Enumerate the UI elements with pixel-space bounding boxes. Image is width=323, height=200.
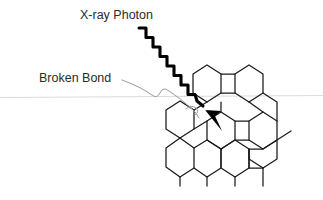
lattice-bond-segment bbox=[180, 138, 194, 148]
squiggly-wave-icon bbox=[139, 28, 203, 106]
lattice-bond-segment bbox=[249, 102, 263, 112]
impact-arrow-icon bbox=[197, 100, 222, 131]
hexagonal-lattice-icon bbox=[166, 65, 291, 186]
callout-hook-icon bbox=[186, 106, 198, 115]
diagram-canvas: X-ray Photon Broken Bond bbox=[0, 0, 323, 200]
broken-bond-label: Broken Bond bbox=[39, 71, 111, 85]
lattice-bond-segment bbox=[166, 138, 194, 177]
hexagon-cell bbox=[249, 112, 277, 149]
horizon-rule-icon bbox=[0, 96, 323, 98]
hexagon-cell bbox=[249, 140, 277, 168]
photon-label: X-ray Photon bbox=[80, 8, 153, 22]
lattice-bond-segment bbox=[194, 121, 207, 129]
diagram-svg: X-ray Photon Broken Bond bbox=[0, 0, 323, 200]
hexagon-cell bbox=[221, 140, 249, 177]
lattice-bond-segment bbox=[277, 131, 291, 140]
hexagon-cell bbox=[194, 140, 221, 177]
